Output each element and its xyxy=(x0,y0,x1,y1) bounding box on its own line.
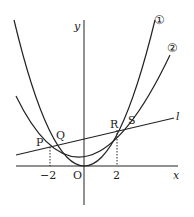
tick-label-2: 2 xyxy=(113,170,120,181)
parabola-diagram: y x O −2 2 ① ② l P Q R S xyxy=(0,0,194,217)
x-axis-label: x xyxy=(173,170,179,181)
y-axis-label: y xyxy=(74,21,80,32)
point-R-label: R xyxy=(110,119,118,130)
diagram-canvas xyxy=(0,0,194,217)
curve-1-label: ① xyxy=(154,14,165,26)
line-l-label: l xyxy=(176,111,180,122)
curve-2-label: ② xyxy=(167,42,178,54)
point-P-label: P xyxy=(36,137,43,148)
origin-label: O xyxy=(73,170,82,181)
point-Q-label: Q xyxy=(56,130,65,141)
tick-label-neg2: −2 xyxy=(40,170,56,181)
point-S-label: S xyxy=(128,115,136,126)
